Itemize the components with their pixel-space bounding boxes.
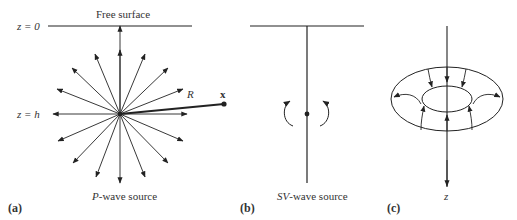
zh-label: z = h <box>17 108 40 120</box>
p-wave-rays <box>53 26 187 183</box>
point-label: x <box>220 88 226 100</box>
z-axis-label: z <box>444 190 448 202</box>
distance-label: R <box>187 88 194 100</box>
sv-source-point <box>305 112 310 117</box>
p-wave-caption: P-wave source <box>92 190 157 202</box>
panel-a-label: (a) <box>8 201 22 216</box>
panel-c-torus <box>391 26 503 187</box>
panel-b-sv-wave <box>250 26 364 183</box>
rotation-arrow-right <box>320 101 329 126</box>
panel-a-p-wave <box>48 26 227 183</box>
sv-wave-caption: SV-wave source <box>277 190 348 202</box>
panel-c-label: (c) <box>387 201 400 216</box>
seismic-source-diagram <box>0 0 517 220</box>
rotation-arrow-left <box>284 101 293 126</box>
p-source-point <box>118 112 122 116</box>
observation-point <box>221 101 226 106</box>
free-surface-label: Free surface <box>96 8 150 20</box>
panel-b-label: (b) <box>240 201 255 216</box>
distance-line-r <box>120 104 224 114</box>
z0-label: z = 0 <box>17 20 40 32</box>
